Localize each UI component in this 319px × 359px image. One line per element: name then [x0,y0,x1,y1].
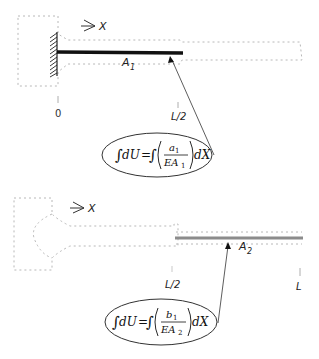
fixed-wall-icon [50,32,57,77]
free-body-diagram: X A 1 0 L/2 ∫ dU = ∫ a 1 EA 1 dX [0,0,319,359]
bottom-equation: ∫ dU = ∫ b 1 EA 2 dX [105,299,217,345]
top-member-subscript: 1 [130,63,135,72]
bottom-x-arrow-icon [70,202,84,213]
bottom-eq-numerator-sub: 1 [173,314,177,322]
top-eq-denominator-sub: 1 [181,162,185,170]
bottom-eq-numerator: b [166,309,172,320]
bottom-eq-tail: dX [192,315,209,329]
top-eq-tail: dX [194,148,211,162]
top-tick-label-1: L/2 [171,111,186,122]
top-x-arrow-icon [81,20,95,31]
bottom-axis-label: X [87,202,96,215]
bottom-dotted-circle [33,214,52,258]
bottom-eq-denominator: EA [160,324,176,335]
bottom-member-subscript: 2 [247,247,252,256]
top-eq-numerator-sub: 1 [175,147,179,155]
bottom-tick-label-0: L/2 [165,279,180,290]
top-equation: ∫ dU = ∫ a 1 EA 1 dX [102,133,212,177]
bottom-member-label: A [238,240,247,253]
bottom-dotted-outline [14,198,178,270]
bottom-eq-lparen [155,308,158,336]
top-pointer-arrow [168,56,214,155]
bottom-eq-integral-rhs: ∫ [146,313,154,331]
top-panel: X A 1 0 L/2 ∫ dU = ∫ a 1 EA 1 dX [18,16,302,177]
top-eq-lparen [158,141,161,169]
bottom-panel: X A 2 L/2 L ∫ dU = ∫ b 1 EA 2 dX [14,198,303,345]
bottom-tick-label-1: L [296,281,302,292]
top-member-label: A [121,56,130,69]
top-eq-rparen [190,141,193,169]
bottom-eq-du: dU [119,315,138,329]
bottom-pointer-arrow [218,242,231,323]
bottom-eq-denominator-sub: 2 [178,329,182,337]
top-eq-integral-rhs: ∫ [149,146,157,164]
top-eq-denominator: EA [163,157,179,168]
bottom-eq-rparen [188,308,191,336]
top-tick-label-0: 0 [55,108,61,119]
top-axis-label: X [98,20,107,33]
top-eq-du: dU [122,148,141,162]
top-member-bar [57,52,183,53]
